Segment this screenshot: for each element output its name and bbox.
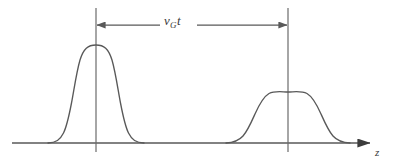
velocity-subscript: G [170, 20, 177, 30]
z-axis-label: z [375, 147, 379, 158]
time-symbol: t [177, 13, 181, 28]
figure-canvas [0, 0, 401, 163]
wave-packet-figure: vGt z [0, 0, 401, 163]
group-velocity-distance-label: vGt [164, 14, 181, 30]
